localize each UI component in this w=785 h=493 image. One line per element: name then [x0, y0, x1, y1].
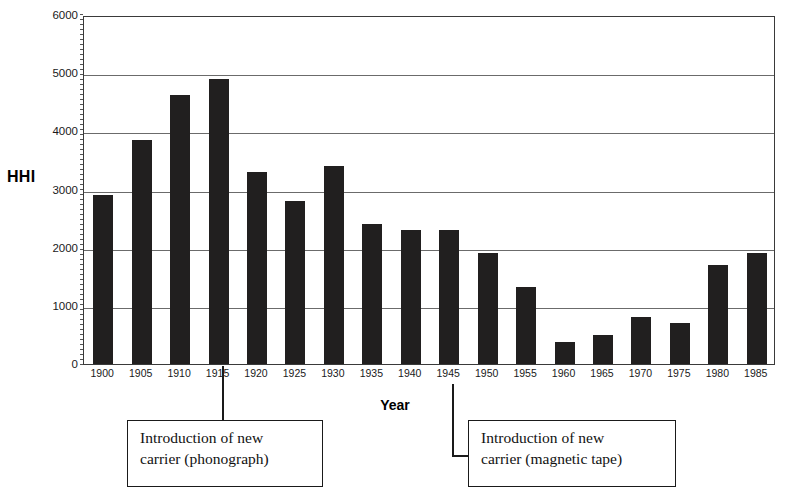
x-tick-1975: 1975 — [660, 367, 698, 379]
annotation-magnetic-tape-line1: Introduction of new — [481, 427, 665, 448]
bar-1925 — [285, 201, 305, 364]
bar-1965 — [593, 335, 613, 364]
hhi-bar-chart: 6000 5000 4000 3000 2000 1000 0 HHI 1900… — [0, 0, 785, 493]
annotation-phonograph: Introduction of new carrier (phonograph) — [127, 420, 323, 487]
bar-1900 — [93, 195, 113, 364]
annotation-magnetic-tape: Introduction of new carrier (magnetic ta… — [468, 420, 676, 487]
x-axis-title: Year — [360, 397, 430, 413]
bar-1960 — [555, 342, 575, 364]
x-tick-1930: 1930 — [314, 367, 352, 379]
x-tick-1910: 1910 — [160, 367, 198, 379]
bar-1950 — [478, 253, 498, 364]
bar-1980 — [708, 265, 728, 364]
y-axis-title: HHI — [7, 168, 35, 186]
bar-series — [84, 17, 774, 364]
y-tick-0: 0 — [30, 359, 78, 371]
y-tick-3000: 3000 — [30, 185, 78, 197]
x-tick-1955: 1955 — [506, 367, 544, 379]
bar-1985 — [747, 253, 767, 364]
bar-1905 — [132, 140, 152, 364]
bar-1920 — [247, 172, 267, 364]
bar-1910 — [170, 95, 190, 364]
bar-1955 — [516, 287, 536, 364]
annotation-phonograph-line2: carrier (phonograph) — [140, 448, 312, 469]
bar-1975 — [670, 323, 690, 364]
y-tick-6000: 6000 — [30, 10, 78, 22]
plot-area — [83, 16, 775, 365]
y-tick-4000: 4000 — [30, 126, 78, 138]
bar-1935 — [362, 224, 382, 364]
x-tick-1960: 1960 — [544, 367, 582, 379]
x-tick-1905: 1905 — [121, 367, 159, 379]
y-tick-1000: 1000 — [30, 301, 78, 313]
y-tick-2000: 2000 — [30, 243, 78, 255]
x-tick-1980: 1980 — [698, 367, 736, 379]
bar-1970 — [631, 317, 651, 364]
x-tick-1945: 1945 — [429, 367, 467, 379]
leader-line-magnetic-tape-vertical — [452, 384, 454, 456]
x-tick-1915: 1915 — [198, 367, 236, 379]
annotation-phonograph-line1: Introduction of new — [140, 427, 312, 448]
x-tick-1965: 1965 — [583, 367, 621, 379]
leader-line-phonograph — [222, 366, 224, 420]
x-tick-1900: 1900 — [83, 367, 121, 379]
bar-1945 — [439, 230, 459, 364]
x-tick-1970: 1970 — [621, 367, 659, 379]
x-tick-1925: 1925 — [275, 367, 313, 379]
x-tick-1920: 1920 — [237, 367, 275, 379]
bar-1930 — [324, 166, 344, 364]
x-tick-1940: 1940 — [391, 367, 429, 379]
x-tick-1950: 1950 — [467, 367, 505, 379]
y-axis-tick-labels: 6000 5000 4000 3000 2000 1000 0 — [20, 0, 78, 400]
x-axis-tick-labels: 1900190519101915192019251930193519401945… — [83, 367, 775, 383]
annotation-magnetic-tape-line2: carrier (magnetic tape) — [481, 448, 665, 469]
x-tick-1935: 1935 — [352, 367, 390, 379]
bar-1940 — [401, 230, 421, 364]
bar-1915 — [209, 79, 229, 364]
y-tick-5000: 5000 — [30, 68, 78, 80]
x-tick-1985: 1985 — [737, 367, 775, 379]
